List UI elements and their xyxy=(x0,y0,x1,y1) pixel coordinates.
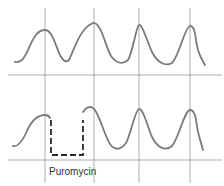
top-wave xyxy=(15,23,205,65)
bottom-wave-after xyxy=(83,107,203,150)
vertical-gridlines xyxy=(45,8,190,183)
puromycin-label: Puromycin xyxy=(49,166,96,177)
bottom-wave-before xyxy=(13,115,50,146)
oscillation-diagram: Puromycin xyxy=(0,0,224,186)
puromycin-dashed-block xyxy=(51,120,83,155)
